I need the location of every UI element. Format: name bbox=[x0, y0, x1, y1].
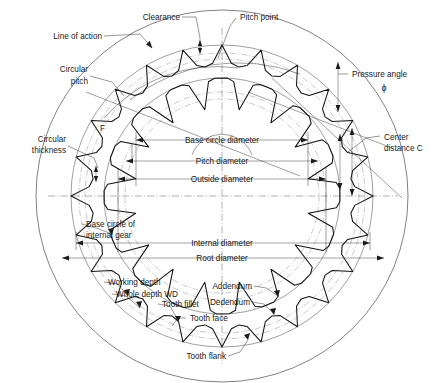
arrowhead bbox=[94, 176, 98, 182]
leader-tooth-flank bbox=[228, 340, 248, 356]
label-face-width: F bbox=[100, 124, 105, 133]
label-tooth-fillet: Tooth fillet bbox=[162, 300, 200, 309]
label-root-diameter: Root diameter bbox=[196, 254, 248, 263]
arrowhead bbox=[363, 241, 370, 246]
leader-clearance bbox=[182, 17, 200, 38]
label-pitch-diameter: Pitch diameter bbox=[196, 157, 249, 166]
arrowhead bbox=[198, 48, 202, 54]
arrowhead bbox=[377, 256, 384, 261]
label-tooth-flank: Tooth flank bbox=[186, 352, 227, 361]
label-center-distance-line1: Center bbox=[384, 133, 409, 142]
leader-circular-thickness bbox=[68, 146, 98, 168]
label-outside-diameter: Outside diameter bbox=[191, 175, 254, 184]
label-clearance: Clearance bbox=[143, 13, 181, 22]
label-circular-pitch-line2: pitch bbox=[71, 77, 89, 86]
label-circular-pitch-line1: Circular bbox=[60, 65, 88, 74]
label-internal-diameter: Internal diameter bbox=[191, 239, 253, 248]
pressure-angle-line bbox=[272, 78, 402, 198]
arrowhead bbox=[76, 241, 83, 246]
label-pressure-angle: Pressure angle bbox=[352, 70, 408, 79]
arrowhead bbox=[198, 40, 202, 46]
label-tooth-face: Tooth face bbox=[190, 314, 228, 323]
label-base-circle-internal-line1: Base circle of bbox=[86, 220, 136, 229]
figure-canvas: Line of action Clearance Pitch point Cir… bbox=[0, 0, 444, 383]
arrowhead bbox=[336, 62, 341, 69]
label-line-of-action: Line of action bbox=[53, 32, 102, 41]
arrowhead bbox=[350, 189, 355, 196]
label-base-circle-diameter: Base circle diameter bbox=[185, 136, 259, 145]
label-base-circle-internal-line2: internal gear bbox=[86, 231, 132, 240]
label-working-depth: Working depth bbox=[108, 278, 161, 287]
label-circular-thickness-line2: thickness bbox=[32, 146, 66, 155]
leader-pitch-point bbox=[218, 18, 236, 58]
label-circular-thickness-line1: Circular bbox=[38, 135, 66, 144]
label-addendum: Addendum bbox=[212, 282, 252, 291]
arrowhead bbox=[311, 159, 318, 164]
arrowhead bbox=[62, 256, 69, 261]
gear-nomenclature-figure: Line of action Clearance Pitch point Cir… bbox=[0, 0, 444, 383]
leader-circular-pitch bbox=[90, 76, 124, 96]
arrowhead bbox=[350, 128, 355, 135]
label-pressure-angle-symbol: ϕ bbox=[381, 83, 386, 93]
label-pitch-point: Pitch point bbox=[240, 13, 279, 22]
construction-arc-top bbox=[130, 63, 300, 100]
arrowhead bbox=[301, 138, 308, 143]
line-of-action-line bbox=[86, 92, 300, 176]
arrowhead bbox=[336, 105, 341, 112]
arrowhead bbox=[136, 138, 143, 143]
label-dedendum: Dedendum bbox=[210, 298, 250, 307]
leader-line-of-action bbox=[104, 34, 152, 48]
pressure-angle-line-2 bbox=[248, 92, 392, 148]
label-center-distance-line2: distance C bbox=[384, 144, 423, 153]
